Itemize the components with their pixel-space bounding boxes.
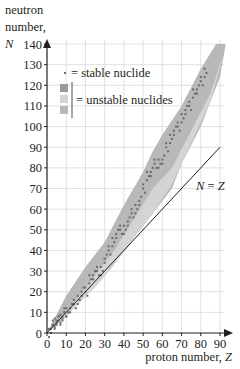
- y-tick-label: 30: [30, 265, 43, 279]
- stable-nuclide-marker: [59, 324, 61, 326]
- stable-nuclide-marker: [173, 130, 175, 132]
- stable-nuclide-marker: [144, 192, 146, 194]
- stable-nuclide-marker: [52, 320, 54, 322]
- stable-nuclide-marker: [182, 117, 184, 119]
- stable-nuclide-marker: [152, 167, 154, 169]
- x-axis-arrow-icon: [224, 329, 233, 337]
- stable-nuclide-marker: [181, 113, 183, 115]
- stable-nuclide-marker: [127, 221, 129, 223]
- stable-nuclide-marker: [184, 113, 186, 115]
- x-tick-label: 10: [60, 337, 73, 351]
- stable-nuclide-marker: [88, 274, 90, 276]
- stable-nuclide-marker: [154, 163, 156, 165]
- y-tick-label: 130: [23, 58, 42, 72]
- stable-nuclide-marker: [146, 179, 148, 181]
- stable-nuclide-marker: [177, 126, 179, 128]
- stable-nuclide-marker: [127, 225, 129, 227]
- stable-nuclide-marker: [83, 287, 85, 289]
- stable-nuclide-marker: [194, 93, 196, 95]
- stable-nuclide-marker: [108, 245, 110, 247]
- stable-nuclide-marker: [196, 93, 198, 95]
- y-tick-label: 0: [36, 327, 42, 341]
- stable-nuclide-marker: [92, 274, 94, 276]
- y-tick-label: 40: [30, 244, 43, 258]
- x-tick-label: 50: [137, 337, 150, 351]
- stable-nuclide-marker: [54, 318, 56, 320]
- stable-nuclide-marker: [138, 200, 140, 202]
- stable-nuclide-marker: [65, 307, 67, 309]
- stable-nuclide-marker: [204, 76, 206, 78]
- stable-nuclide-marker: [115, 233, 117, 235]
- stable-nuclide-marker: [73, 299, 75, 301]
- stable-nuclide-marker: [94, 270, 96, 272]
- stable-nuclide-marker: [134, 204, 136, 206]
- legend-label-stable: = stable nuclide: [71, 66, 151, 80]
- x-tick-label: 20: [79, 337, 92, 351]
- unstable-legend-swatch: [60, 84, 68, 92]
- y-tick-label: 60: [30, 203, 43, 217]
- stable-nuclide-marker: [125, 229, 127, 231]
- stable-nuclide-marker: [113, 241, 115, 243]
- legend: = stable nuclide= unstable nuclides: [60, 66, 173, 118]
- y-tick-label: 80: [30, 161, 43, 175]
- stable-nuclide-marker: [198, 84, 200, 86]
- stable-nuclide-marker: [175, 126, 177, 128]
- stable-nuclide-marker: [202, 84, 204, 86]
- stable-nuclide-marker: [190, 109, 192, 111]
- stable-nuclide-marker: [136, 208, 138, 210]
- stable-nuclide-marker: [88, 282, 90, 284]
- stable-nuclide-marker: [96, 270, 98, 272]
- n-equals-z-line-path: [47, 147, 220, 333]
- stable-nuclide-marker: [59, 313, 61, 315]
- stable-nuclide-marker: [159, 163, 161, 165]
- stable-nuclide-marker: [69, 311, 71, 313]
- stable-nuclide-marker: [59, 322, 61, 324]
- unstable-legend-swatch: [60, 95, 68, 103]
- stable-nuclide-marker: [196, 88, 198, 90]
- stable-nuclide-marker: [75, 307, 77, 309]
- stable-nuclide-marker: [161, 159, 163, 161]
- stable-nuclide-marker: [156, 167, 158, 169]
- stable-nuclide-marker: [163, 154, 165, 156]
- stable-nuclide-marker: [96, 266, 98, 268]
- stable-nuclide-marker: [133, 216, 135, 218]
- stable-nuclide-marker: [111, 237, 113, 239]
- x-axis-label: proton number, Z: [145, 350, 232, 365]
- nuclide-chart: N = Z 0102030405060708090100110120130140…: [0, 0, 240, 369]
- stable-nuclide-marker: [104, 262, 106, 264]
- stable-nuclide-marker: [115, 237, 117, 239]
- stable-nuclide-marker: [154, 159, 156, 161]
- stable-nuclide-marker: [188, 105, 190, 107]
- y-tick-label: 110: [24, 99, 42, 113]
- y-tick-label: 90: [30, 141, 43, 155]
- x-axis-symbol: Z: [225, 350, 232, 364]
- stable-nuclide-marker: [86, 295, 88, 297]
- stable-nuclide-marker: [117, 229, 119, 231]
- stable-nuclide-marker: [188, 101, 190, 103]
- stable-nuclide-marker: [200, 80, 202, 82]
- y-tick-label: 120: [23, 79, 42, 93]
- unstable-legend-swatch: [60, 106, 68, 114]
- y-tick-label: 50: [30, 223, 43, 237]
- stable-nuclide-marker: [165, 146, 167, 148]
- stable-nuclide-marker: [104, 258, 106, 260]
- stable-nuclide-marker: [121, 233, 123, 235]
- x-tick-label: 80: [195, 337, 208, 351]
- y-tick-label: 10: [30, 306, 43, 320]
- stable-nuclide-marker: [142, 188, 144, 190]
- stable-nuclide-marker: [109, 254, 111, 256]
- x-tick-label: 30: [98, 337, 111, 351]
- stable-nuclide-marker: [169, 134, 171, 136]
- stable-nuclide-marker: [65, 315, 67, 317]
- y-tick-label: 20: [30, 285, 43, 299]
- x-axis-label-text: proton number,: [145, 350, 225, 364]
- stable-nuclide-marker: [157, 159, 159, 161]
- stable-nuclide-marker: [100, 266, 102, 268]
- stable-nuclide-marker: [119, 229, 121, 231]
- x-tick-label: 60: [156, 337, 169, 351]
- stable-nuclide-marker: [186, 105, 188, 107]
- stable-nuclide-marker: [148, 175, 150, 177]
- stable-nuclide-marker: [123, 225, 125, 227]
- stable-nuclide-marker: [123, 233, 125, 235]
- stable-nuclide-marker: [111, 245, 113, 247]
